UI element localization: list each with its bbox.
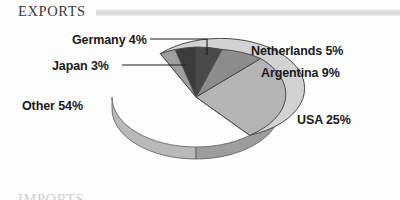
next-section-title: IMPORTS (18, 191, 84, 200)
pie-chart: Germany 4% Japan 3% Other 54% Netherland… (0, 0, 400, 200)
pie-label-netherlands: Netherlands 5% (251, 44, 343, 58)
pie-label-other: Other 54% (22, 99, 83, 113)
exports-pie-chart-figure: EXPORTS (0, 0, 400, 200)
pie-label-usa: USA 25% (297, 113, 351, 127)
pie-label-germany: Germany 4% (72, 33, 147, 47)
pie-label-argentina: Argentina 9% (261, 66, 340, 80)
pie-label-japan: Japan 3% (52, 59, 109, 73)
depth-wall-other (112, 97, 196, 159)
